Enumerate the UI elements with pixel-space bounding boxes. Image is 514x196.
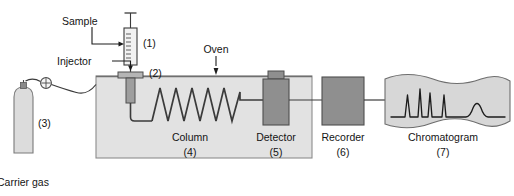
label-column: Column xyxy=(172,131,208,143)
sample-arrow-icon xyxy=(119,42,125,47)
injector-port-plate xyxy=(118,72,143,78)
regulator-valve-group xyxy=(26,78,52,89)
callout-carrier-gas: (3) xyxy=(38,117,51,129)
detector-box xyxy=(263,79,289,125)
callout-syringe: (1) xyxy=(143,37,156,49)
gas-cylinder-neck xyxy=(21,83,27,89)
gas-cylinder-body xyxy=(14,87,33,153)
callout-chromatogram: (7) xyxy=(437,146,450,158)
syringe-barrel xyxy=(124,28,137,65)
detector-cap xyxy=(268,71,284,79)
callout-recorder: (6) xyxy=(337,146,350,158)
diagram-canvas: Sample Injector Oven (1) (2) (3) Carrier… xyxy=(0,0,514,196)
injector-arrow-icon xyxy=(128,66,133,72)
label-chromatogram: Chromatogram xyxy=(408,131,478,143)
chart-paper xyxy=(385,75,510,128)
label-recorder: Recorder xyxy=(321,131,365,143)
carrier-gas-cylinder-group xyxy=(14,80,33,153)
recorder-box xyxy=(322,77,364,125)
label-oven: Oven xyxy=(203,43,228,55)
oven-arrow-icon xyxy=(214,68,219,75)
label-sample: Sample xyxy=(62,15,98,27)
cylinder-to-valve-tube xyxy=(26,79,41,81)
chromatogram-group xyxy=(385,75,510,128)
sample-leader xyxy=(92,27,121,44)
callout-column: (4) xyxy=(184,146,197,158)
label-carrier-gas: Carrier gas xyxy=(0,176,49,188)
injector-body xyxy=(126,78,135,103)
label-injector: Injector xyxy=(57,55,92,67)
callout-injector-port: (2) xyxy=(149,67,162,79)
gas-chromatograph-diagram: Sample Injector Oven (1) (2) (3) Carrier… xyxy=(0,0,514,196)
callout-detector: (5) xyxy=(270,146,283,158)
detector-group xyxy=(263,71,289,125)
carrier-gas-tube xyxy=(51,85,96,94)
label-detector: Detector xyxy=(256,131,296,143)
